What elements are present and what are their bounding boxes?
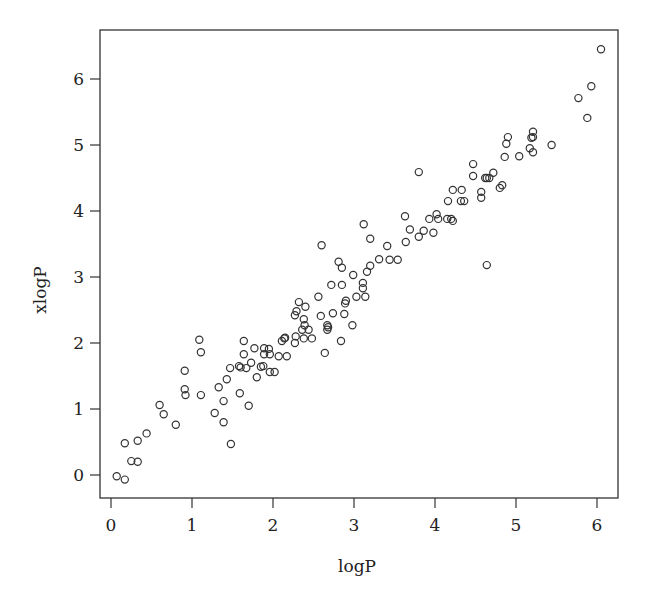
data-point xyxy=(248,359,255,366)
y-tick-label: 5 xyxy=(73,135,84,155)
data-point xyxy=(406,226,413,233)
data-point xyxy=(584,114,591,121)
y-tick-label: 3 xyxy=(73,267,84,287)
data-point xyxy=(501,153,508,160)
data-point xyxy=(338,264,345,271)
data-point xyxy=(215,384,222,391)
data-point xyxy=(504,134,511,141)
data-point xyxy=(341,310,348,317)
data-points xyxy=(113,46,605,484)
data-point xyxy=(172,421,179,428)
x-tick-label: 5 xyxy=(511,515,522,535)
data-point xyxy=(426,215,433,222)
data-point xyxy=(458,186,465,193)
data-point xyxy=(271,368,278,375)
data-point xyxy=(308,335,315,342)
data-point xyxy=(328,281,335,288)
data-point xyxy=(251,345,258,352)
y-tick-label: 1 xyxy=(73,399,84,419)
data-point xyxy=(360,221,367,228)
data-point xyxy=(227,440,234,447)
data-point xyxy=(367,235,374,242)
data-point xyxy=(143,430,150,437)
data-point xyxy=(359,285,366,292)
data-point xyxy=(245,402,252,409)
data-point xyxy=(197,392,204,399)
x-axis: 0123456 xyxy=(106,498,603,535)
data-point xyxy=(349,322,356,329)
y-tick-label: 2 xyxy=(73,333,84,353)
data-point xyxy=(449,186,456,193)
data-point xyxy=(275,353,282,360)
data-point xyxy=(401,213,408,220)
x-tick-label: 4 xyxy=(430,515,441,535)
y-tick-label: 4 xyxy=(73,201,84,221)
data-point xyxy=(321,349,328,356)
data-point xyxy=(433,211,440,218)
data-point xyxy=(386,256,393,263)
data-point xyxy=(220,398,227,405)
data-point xyxy=(156,401,163,408)
x-tick-label: 6 xyxy=(592,515,603,535)
data-point xyxy=(444,198,451,205)
data-point xyxy=(470,161,477,168)
data-point xyxy=(516,153,523,160)
data-point xyxy=(121,476,128,483)
data-point xyxy=(227,365,234,372)
x-axis-label: logP xyxy=(338,556,376,576)
scatter-chart: 0123456 0123456 logP xlogP xyxy=(0,0,652,600)
x-tick-label: 0 xyxy=(106,515,117,535)
data-point xyxy=(253,374,260,381)
data-point xyxy=(223,376,230,383)
data-point xyxy=(236,390,243,397)
data-point xyxy=(394,256,401,263)
x-tick-label: 1 xyxy=(187,515,198,535)
data-point xyxy=(211,409,218,416)
data-point xyxy=(317,312,324,319)
data-point xyxy=(415,169,422,176)
data-point xyxy=(240,337,247,344)
data-point xyxy=(384,242,391,249)
data-point xyxy=(121,440,128,447)
data-point xyxy=(197,349,204,356)
data-point xyxy=(367,262,374,269)
y-tick-label: 6 xyxy=(73,69,84,89)
x-tick-label: 2 xyxy=(268,515,279,535)
data-point xyxy=(350,271,357,278)
data-point xyxy=(220,419,227,426)
x-tick-label: 3 xyxy=(349,515,360,535)
data-point xyxy=(295,299,302,306)
data-point xyxy=(196,336,203,343)
data-point xyxy=(435,215,442,222)
data-point xyxy=(160,411,167,418)
data-point xyxy=(420,227,427,234)
data-point xyxy=(338,281,345,288)
data-point xyxy=(575,95,582,102)
data-point xyxy=(430,229,437,236)
data-point xyxy=(113,473,120,480)
data-point xyxy=(376,256,383,263)
data-point xyxy=(483,262,490,269)
data-point xyxy=(588,83,595,90)
data-point xyxy=(302,303,309,310)
data-point xyxy=(353,293,360,300)
y-tick-label: 0 xyxy=(73,465,84,485)
data-point xyxy=(240,351,247,358)
data-point xyxy=(470,172,477,179)
data-point xyxy=(362,293,369,300)
data-point xyxy=(283,353,290,360)
data-point xyxy=(402,238,409,245)
data-point xyxy=(134,437,141,444)
data-point xyxy=(597,46,604,53)
data-point xyxy=(548,141,555,148)
data-point xyxy=(318,242,325,249)
data-point xyxy=(337,337,344,344)
y-axis: 0123456 xyxy=(73,69,100,485)
y-axis-label: xlogP xyxy=(30,266,50,314)
data-point xyxy=(300,335,307,342)
data-point xyxy=(315,293,322,300)
data-point xyxy=(490,169,497,176)
data-point xyxy=(181,367,188,374)
data-point xyxy=(329,310,336,317)
